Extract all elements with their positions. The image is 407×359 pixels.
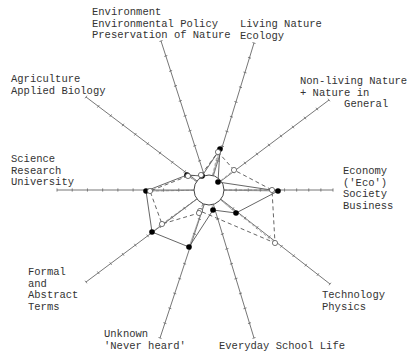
axis-tick	[174, 85, 177, 86]
series-spoke	[162, 199, 197, 224]
data-point-open	[198, 172, 203, 177]
data-point-open	[159, 221, 164, 226]
axis-tick	[225, 131, 228, 132]
axis-non_living_nature	[221, 100, 329, 181]
data-point-open	[196, 210, 201, 215]
data-point-filled	[215, 179, 221, 185]
axis-label-science-research: Science Research University	[11, 154, 74, 189]
data-point-filled	[149, 229, 155, 235]
axis-tick	[230, 263, 233, 264]
axis-tick	[221, 234, 224, 235]
axis-tick	[248, 323, 251, 324]
axis-tick	[234, 278, 237, 279]
axis-tick	[234, 101, 237, 102]
center-circle	[194, 175, 224, 205]
axis-tick	[164, 55, 167, 56]
axis-tick	[184, 115, 187, 116]
data-point-filled	[186, 244, 192, 250]
axis-label-unknown: Unknown 'Never heard'	[104, 329, 186, 352]
axis-everyday_school_life	[213, 204, 254, 338]
axis-label-formal-abstract: Formal and Abstract Terms	[28, 267, 78, 313]
axis-unknown	[160, 204, 204, 338]
axis-tick	[239, 87, 242, 88]
axis-tick	[221, 146, 224, 147]
axis-tick	[248, 57, 251, 58]
axis-tick	[169, 70, 172, 71]
axis-environment	[161, 41, 204, 176]
data-point-filled	[210, 207, 216, 213]
axis-tick	[243, 72, 246, 73]
axis-label-everyday-school-life: Everyday School Life	[219, 341, 345, 353]
data-point-open	[185, 173, 190, 178]
axis-tick	[193, 145, 196, 146]
axis-tick	[173, 293, 176, 294]
axis-label-economy: Economy ('Eco') Society Business	[343, 166, 393, 212]
data-point-open	[215, 149, 220, 154]
axis-tick	[179, 100, 182, 101]
data-point-open	[272, 240, 277, 245]
axis-label-living-nature: Living Nature Ecology	[240, 19, 322, 42]
axis-tick	[225, 248, 228, 249]
axis-tick	[252, 43, 255, 44]
data-point-filled	[233, 210, 239, 216]
axis-tick	[230, 116, 233, 117]
axis-tick	[163, 323, 166, 324]
axis-label-technology: Technology Physics	[322, 290, 385, 313]
axis-agriculture	[86, 97, 197, 181]
axis-tick	[198, 219, 201, 220]
axis-tick	[168, 308, 171, 309]
axis-label-non-living-nature: Non-living Nature + Nature in General	[300, 76, 407, 111]
series-spoke	[221, 199, 275, 243]
axis-tick	[239, 293, 242, 294]
axis-tick	[188, 130, 191, 131]
data-point-open	[147, 188, 152, 193]
axis-tick	[243, 308, 246, 309]
axis-tick	[198, 160, 201, 161]
axis-tick	[178, 278, 181, 279]
data-point-open	[231, 167, 236, 172]
axis-label-environment: Environment Environmental Policy Preserv…	[92, 7, 231, 42]
data-point-open	[269, 187, 274, 192]
axis-tick	[183, 263, 186, 264]
data-point-filled	[275, 188, 281, 194]
axis-label-agriculture: Agriculture Applied Biology	[11, 74, 106, 97]
axis-tick	[252, 338, 255, 339]
